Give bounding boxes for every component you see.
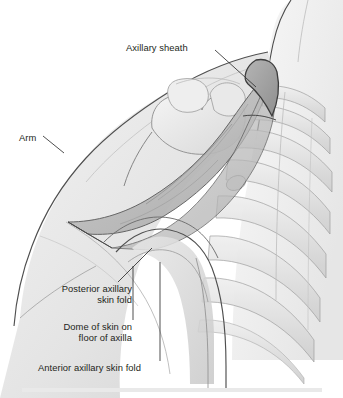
label-anterior-axillary-skin-fold: Anterior axillary skin fold — [38, 362, 141, 373]
anatomical-figure: Axillary sheath Arm Posterior axillary s… — [0, 0, 343, 398]
label-axillary-sheath: Axillary sheath — [126, 42, 188, 53]
label-dome-of-skin-on-floor-of-axilla: Dome of skin on floor of axilla — [30, 321, 132, 343]
label-posterior-axillary-skin-fold: Posterior axillary skin fold — [14, 283, 132, 305]
label-line-1: Dome of skin on — [64, 321, 133, 332]
greater-tubercle — [168, 79, 209, 113]
label-line-2: floor of axilla — [79, 332, 132, 343]
label-arm: Arm — [19, 132, 36, 143]
label-line-1: Posterior axillary — [62, 283, 132, 294]
label-line-2: skin fold — [97, 294, 132, 305]
page-footer-band — [22, 388, 322, 392]
